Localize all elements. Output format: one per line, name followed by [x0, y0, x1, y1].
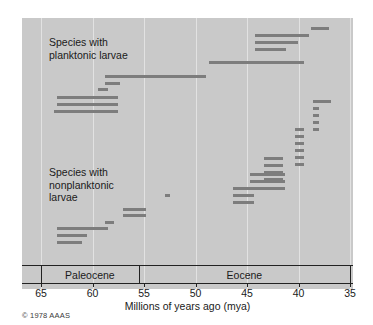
x-axis-label: Millions of years ago (mya)	[22, 300, 353, 312]
range-bar-nonplanktonic	[233, 194, 255, 197]
group-label-nonplanktonic: Species withnonplanktoniclarvae	[49, 166, 114, 204]
axis-tick-label: 35	[344, 287, 356, 299]
range-bar-planktonic	[57, 103, 119, 106]
epoch-cell-eocene: Eocene	[139, 266, 350, 283]
range-bar-planktonic	[209, 61, 304, 64]
epoch-label: Paleocene	[65, 269, 115, 281]
range-bar-nonplanktonic	[295, 156, 303, 159]
gridline	[41, 18, 42, 289]
axis-tick-label: 65	[35, 287, 47, 299]
range-bar-nonplanktonic	[123, 214, 146, 217]
range-bar-nonplanktonic	[250, 180, 285, 183]
group-label-planktonic: Species withplanktonic larvae	[49, 36, 128, 61]
range-bar-planktonic	[105, 75, 206, 78]
plot-panel: Species withplanktonic larvae Species wi…	[22, 18, 353, 289]
range-bar-nonplanktonic	[295, 135, 303, 138]
range-bar-nonplanktonic	[295, 149, 303, 152]
range-bar-nonplanktonic	[295, 128, 303, 131]
copyright-credit: © 1978 AAAS	[22, 311, 70, 320]
gridline	[350, 18, 351, 289]
range-bar-nonplanktonic	[313, 121, 319, 124]
axis-tick-label: 50	[190, 287, 202, 299]
range-bar-nonplanktonic	[264, 157, 284, 160]
range-bar-planktonic	[98, 88, 108, 91]
gridline	[247, 18, 248, 289]
range-bar-nonplanktonic	[313, 100, 332, 103]
gridline	[196, 18, 197, 289]
range-bar-nonplanktonic	[165, 194, 170, 197]
axis-tick-label: 60	[87, 287, 99, 299]
epoch-separator	[139, 266, 140, 283]
range-bar-planktonic	[54, 110, 118, 113]
range-bar-nonplanktonic	[233, 201, 255, 204]
figure-range-chart: Species withplanktonic larvae Species wi…	[0, 0, 373, 325]
axis-tick-label: 45	[241, 287, 253, 299]
range-bar-nonplanktonic	[313, 114, 319, 117]
gridline	[144, 18, 145, 289]
range-bar-nonplanktonic	[313, 128, 319, 131]
range-bar-planktonic	[57, 96, 119, 99]
epoch-cell-paleocene: Paleocene	[41, 266, 139, 283]
range-bar-planktonic	[255, 48, 286, 51]
epoch-band: PaleoceneEocene	[22, 266, 353, 283]
range-bar-nonplanktonic	[233, 187, 286, 190]
range-bar-nonplanktonic	[250, 173, 285, 176]
range-bar-planktonic	[255, 34, 309, 37]
range-bar-nonplanktonic	[57, 234, 88, 237]
gridline	[299, 18, 300, 289]
epoch-separator	[41, 266, 42, 283]
range-bar-planktonic	[311, 27, 330, 30]
range-bar-nonplanktonic	[105, 221, 114, 224]
range-bar-nonplanktonic	[313, 107, 319, 110]
epoch-label: Eocene	[227, 269, 263, 281]
range-bar-nonplanktonic	[264, 164, 284, 167]
range-bar-nonplanktonic	[123, 208, 146, 211]
epoch-separator	[350, 266, 351, 283]
range-bar-planktonic	[255, 41, 298, 44]
range-bar-nonplanktonic	[57, 241, 83, 244]
range-bar-nonplanktonic	[295, 163, 303, 166]
axis-tick-label: 40	[293, 287, 305, 299]
range-bar-planktonic	[105, 82, 121, 85]
range-bar-nonplanktonic	[295, 142, 303, 145]
axis-tick-label: 55	[138, 287, 150, 299]
range-bar-nonplanktonic	[57, 227, 109, 230]
